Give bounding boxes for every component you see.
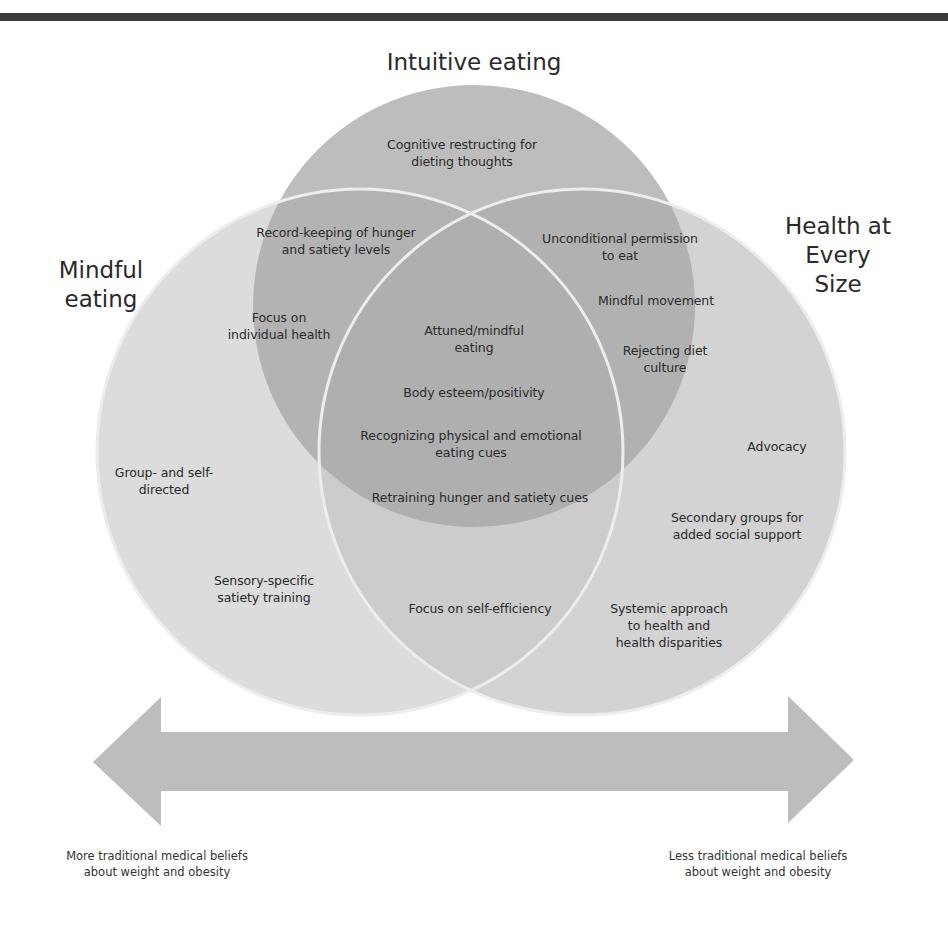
double-arrow	[93, 696, 854, 826]
arrow-shaft	[160, 732, 789, 791]
arrow-label-more-traditional: More traditional medical beliefs about w…	[66, 848, 248, 880]
title-mindful-eating: Mindful eating	[59, 256, 143, 314]
label-systemic-approach: Systemic approach to health and health d…	[610, 600, 728, 651]
label-focus-individual-health: Focus on individual health	[228, 309, 331, 343]
left-arrowhead	[93, 697, 161, 826]
label-cognitive-restructuring: Cognitive restructing for dieting though…	[387, 136, 537, 170]
label-recognizing-cues: Recognizing physical and emotional eatin…	[360, 427, 581, 461]
label-focus-self-efficiency: Focus on self-efficiency	[409, 600, 552, 617]
title-intuitive-eating: Intuitive eating	[387, 48, 562, 77]
label-record-keeping: Record-keeping of hunger and satiety lev…	[256, 224, 415, 258]
label-group-self-directed: Group- and self- directed	[115, 464, 213, 498]
label-advocacy: Advocacy	[747, 438, 806, 455]
arrow-label-less-traditional: Less traditional medical beliefs about w…	[669, 848, 848, 880]
title-health-at-every-size: Health at Every Size	[783, 212, 893, 299]
label-attuned-mindful-eating: Attuned/mindful eating	[424, 322, 524, 356]
label-unconditional-permission: Unconditional permission to eat	[542, 230, 698, 264]
label-retraining-cues: Retraining hunger and satiety cues	[372, 489, 588, 506]
label-secondary-groups: Secondary groups for added social suppor…	[671, 509, 803, 543]
label-body-esteem: Body esteem/positivity	[403, 384, 544, 401]
label-mindful-movement: Mindful movement	[598, 292, 714, 309]
label-sensory-specific: Sensory-specific satiety training	[214, 572, 314, 606]
label-rejecting-diet-culture: Rejecting diet culture	[623, 342, 708, 376]
right-arrowhead	[788, 696, 854, 823]
